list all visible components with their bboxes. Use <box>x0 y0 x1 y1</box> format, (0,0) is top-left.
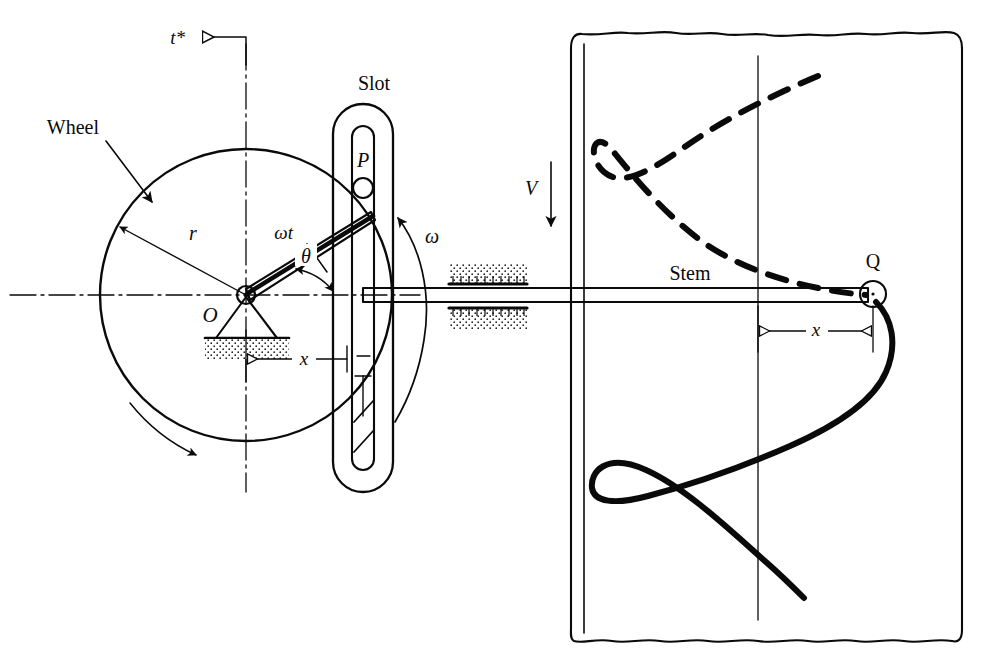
pin-p-circle <box>353 178 373 198</box>
angle-annotations: ωt θ <box>274 222 333 291</box>
trace-solid-segment <box>592 302 893 598</box>
omega-arc <box>395 218 426 422</box>
figure-canvas: x x V Stem <box>0 0 986 671</box>
t-star-leader <box>203 37 246 65</box>
radius-label: r <box>189 222 197 244</box>
wheel-leader-line <box>106 141 152 202</box>
stylus-point-q: Q <box>860 250 886 307</box>
mechanism-diagram: x x V Stem <box>0 0 986 671</box>
time-axis-callout: t* <box>170 27 246 65</box>
recording-paper <box>571 32 962 642</box>
bearing-supports <box>449 263 527 330</box>
q-center-dot <box>871 292 874 295</box>
paper-outline <box>571 32 962 642</box>
t-star-label: t* <box>170 27 185 48</box>
velocity-label: V <box>525 177 540 199</box>
stem-label: Stem <box>669 262 711 284</box>
trace-dashed-segment <box>594 76 866 295</box>
slot-crank-shadow-b <box>354 430 374 452</box>
dimension-x-left-label: x <box>299 348 309 369</box>
slot-label: Slot <box>358 72 391 94</box>
omega-label: ω <box>425 225 439 247</box>
pin-p-label: P <box>356 149 369 171</box>
theta-label: θ <box>301 245 311 267</box>
origin-label: O <box>202 303 217 327</box>
slot-crank-shadow-a <box>354 400 374 422</box>
omega-t-label: ωt <box>274 222 293 243</box>
wheel-label: Wheel <box>47 116 100 138</box>
paper-velocity-indicator: V <box>525 162 551 226</box>
stem-assembly: Stem <box>363 262 868 302</box>
wheel-callout: Wheel <box>47 116 152 202</box>
slot-assembly: P Slot <box>333 72 393 492</box>
stem-body <box>363 288 868 302</box>
wheel-assembly: r <box>10 44 420 492</box>
ground-stipple <box>205 339 289 359</box>
pivot-center-dot <box>244 293 249 298</box>
point-q-label: Q <box>866 250 881 272</box>
dimension-x-right-label-top: x <box>811 319 821 340</box>
omega-rotation-indicator: ω <box>395 218 439 422</box>
